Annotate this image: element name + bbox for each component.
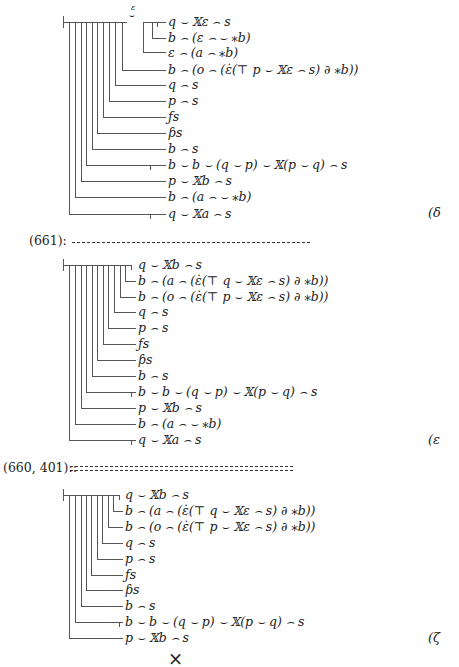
formula-line: ƥs: [168, 126, 182, 140]
times-symbol: ×: [168, 650, 183, 667]
condition-stroke: [103, 22, 104, 117]
formula-line: p ⌢ s: [138, 321, 168, 335]
formula-line: ƒs: [125, 568, 136, 582]
content-stroke: [143, 22, 166, 23]
formula-line: b ⌢ (ɛ ⌢ ⌣ ⁎b): [168, 31, 251, 45]
condition-stroke: [109, 22, 110, 101]
formula-line: ƒs: [168, 110, 179, 124]
formula-line: b ⌢ (o ⌢ (ε̇(⊤ p ⌣ 𝕏ε ⌢ s) ∂ ⁎b)): [125, 520, 316, 534]
formula-line: q ⌣ 𝕏a ⌢ s: [168, 207, 231, 221]
double-rule-bottom: [70, 470, 293, 471]
formula-line: q ⌢ s: [138, 305, 168, 319]
formula-line: b ⌢ (a ⌢ ⌣ ⁎b): [168, 190, 251, 204]
double-rule-top: [70, 466, 293, 467]
formula-line: p ⌢ s: [168, 94, 198, 108]
negation-tick: [157, 22, 158, 27]
equation-label-zeta: (ζ: [428, 630, 440, 645]
equation-label-epsilon: (ε: [428, 432, 440, 447]
content-stroke: [63, 22, 127, 23]
formula-line: b ⌢ (o ⌢ (ε̇(⊤ p ⌣ 𝕏ε ⌢ s) ∂ ⁎b)): [138, 290, 329, 304]
formula-line: b ⌢ (o ⌢ (ε̇(⊤ p ⌣ 𝕏ε ⌢ s) ∂ ⁎b)): [168, 63, 359, 77]
formula-line: b ⌣ b ⌣ (q ⌣ p) ⌣ 𝕏(p ⌣ q) ⌢ s: [125, 615, 304, 629]
formula-line: ɛ ⌢ (a ⌢ ⁎b): [168, 46, 238, 60]
condition-stroke: [69, 22, 70, 214]
dashed-rule: [72, 242, 310, 243]
condition-stroke: [92, 22, 93, 149]
formula-line: q ⌣ 𝕏b ⌢ s: [138, 258, 202, 272]
formula-line: p ⌣ 𝕏b ⌢ s: [138, 401, 202, 415]
proposition-reference: (661):: [29, 233, 67, 248]
condition-stroke: [152, 22, 153, 38]
formula-line: p ⌣ 𝕏b ⌢ s: [168, 174, 232, 188]
formula-line: q ⌣ 𝕏ɛ ⌢ s: [168, 15, 231, 29]
proposition-reference: (660, 401)::: [3, 460, 77, 475]
condition-stroke: [122, 22, 123, 70]
formula-line: ƒs: [138, 337, 149, 351]
condition-stroke: [75, 22, 76, 197]
condition-stroke: [86, 22, 87, 165]
concavity-letter: ɛ: [131, 3, 135, 12]
equation-label-delta: (δ: [428, 205, 441, 220]
formula-line: b ⌣ b ⌣ (q ⌣ p) ⌣ 𝕏(p ⌣ q) ⌢ s: [138, 385, 317, 399]
formula-line: b ⌢ (a ⌢ ⌣ ⁎b): [138, 417, 221, 431]
condition-stroke: [115, 22, 116, 85]
formula-line: b ⌢ s: [125, 599, 155, 613]
formula-line: b ⌢ s: [168, 142, 198, 156]
condition-stroke: [143, 22, 144, 52]
formula-line: q ⌢ s: [125, 536, 155, 550]
formula-line: p ⌢ s: [125, 552, 155, 566]
formula-line: b ⌢ (a ⌢ (ε̇(⊤ q ⌣ 𝕏ε ⌢ s) ∂ ⁎b)): [125, 504, 315, 518]
formula-line: ƥs: [125, 583, 139, 597]
formula-line: p ⌣ 𝕏b ⌢ s: [125, 631, 189, 645]
formula-line: q ⌢ s: [168, 78, 198, 92]
formula-line: b ⌢ (a ⌢ (ε̇(⊤ q ⌣ 𝕏ε ⌢ s) ∂ ⁎b)): [138, 274, 328, 288]
formula-line: q ⌣ 𝕏b ⌢ s: [125, 488, 189, 502]
condition-stroke: [81, 22, 82, 181]
formula-line: b ⌢ s: [138, 369, 168, 383]
condition-stroke: [97, 22, 98, 133]
formula-line: ƥs: [138, 353, 152, 367]
formula-line: q ⌣ 𝕏a ⌢ s: [138, 433, 201, 447]
formula-line: b ⌣ b ⌣ (q ⌣ p) ⌣ 𝕏(p ⌣ q) ⌢ s: [168, 158, 347, 172]
